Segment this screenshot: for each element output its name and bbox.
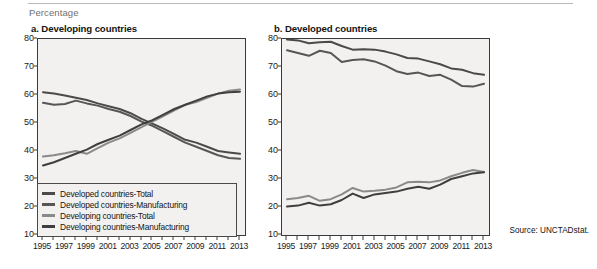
x-axis-tick-label: 2003 bbox=[121, 241, 139, 251]
y-axis-tick-label: 20 bbox=[14, 201, 34, 211]
y-axis-tick-mark bbox=[34, 38, 37, 39]
x-axis-tick-label: 1999 bbox=[321, 241, 339, 251]
y-axis-tick-label: 60 bbox=[258, 89, 278, 99]
y-axis-tick-mark bbox=[278, 66, 281, 67]
x-axis-tick-label: 1997 bbox=[299, 241, 317, 251]
x-axis-tick-label: 2003 bbox=[365, 241, 383, 251]
x-axis-tick-mark bbox=[286, 236, 287, 240]
x-axis-tick-mark bbox=[406, 236, 407, 240]
series-line bbox=[287, 170, 484, 201]
y-axis-tick-mark bbox=[34, 94, 37, 95]
y-axis-tick-mark bbox=[34, 150, 37, 151]
legend-item-label: Developed countries-Manufacturing bbox=[60, 200, 187, 210]
y-axis-tick-label: 60 bbox=[14, 89, 34, 99]
x-axis-tick-mark bbox=[239, 236, 240, 240]
y-axis-tick-label: 80 bbox=[258, 33, 278, 43]
y-axis-tick-label: 80 bbox=[14, 33, 34, 43]
panel-a-title: a. Developing countries bbox=[31, 23, 137, 34]
y-axis-tick-label: 40 bbox=[258, 145, 278, 155]
x-axis-tick-mark bbox=[417, 236, 418, 240]
source-note: Source: UNCTADstat. bbox=[510, 226, 589, 235]
legend-item-label: Developing countries-Total bbox=[60, 211, 155, 221]
x-axis-a: 1995199719992001200320052007200920112013 bbox=[37, 236, 246, 258]
x-axis-tick-mark bbox=[450, 236, 451, 240]
x-axis-tick-mark bbox=[439, 236, 440, 240]
chart-legend: Developed countries-TotalDeveloped count… bbox=[37, 183, 237, 237]
y-axis-tick-mark bbox=[278, 234, 281, 235]
legend-item-label: Developing countries-Manufacturing bbox=[60, 222, 189, 232]
y-axis-tick-label: 40 bbox=[14, 145, 34, 155]
x-axis-tick-label: 2005 bbox=[386, 241, 404, 251]
x-axis-tick-label: 2013 bbox=[474, 241, 492, 251]
y-axis-tick-mark bbox=[278, 178, 281, 179]
x-axis-tick-label: 2011 bbox=[208, 241, 225, 251]
panel-b-title: b. Developed countries bbox=[274, 23, 377, 34]
x-axis-tick-mark bbox=[362, 236, 363, 240]
x-axis-tick-mark bbox=[340, 236, 341, 240]
top-divider-rule bbox=[28, 3, 573, 4]
x-axis-tick-mark bbox=[461, 236, 462, 240]
legend-item: Developed countries-Total bbox=[42, 188, 231, 199]
y-axis-tick-label: 70 bbox=[14, 61, 34, 71]
x-axis-tick-mark bbox=[395, 236, 396, 240]
x-axis-tick-label: 2013 bbox=[230, 241, 248, 251]
x-axis-tick-label: 2001 bbox=[99, 241, 117, 251]
x-axis-tick-label: 2009 bbox=[430, 241, 448, 251]
legend-swatch-icon bbox=[42, 203, 55, 206]
y-axis-tick-label: 70 bbox=[258, 61, 278, 71]
series-line bbox=[287, 40, 484, 75]
x-axis-tick-label: 1995 bbox=[33, 241, 51, 251]
y-axis-tick-mark bbox=[278, 94, 281, 95]
legend-swatch-icon bbox=[42, 225, 55, 228]
x-axis-tick-mark bbox=[483, 236, 484, 240]
x-axis-tick-mark bbox=[373, 236, 374, 240]
x-axis-tick-label: 2001 bbox=[343, 241, 361, 251]
y-axis-tick-mark bbox=[34, 66, 37, 67]
series-line bbox=[43, 92, 240, 166]
legend-item: Developing countries-Manufacturing bbox=[42, 221, 231, 232]
x-axis-tick-mark bbox=[384, 236, 385, 240]
x-axis-tick-mark bbox=[296, 236, 297, 240]
y-axis-tick-mark bbox=[278, 38, 281, 39]
y-axis-tick-mark bbox=[34, 178, 37, 179]
y-axis-tick-mark bbox=[278, 206, 281, 207]
y-axis-tick-label: 30 bbox=[14, 173, 34, 183]
plot-area-b bbox=[281, 38, 490, 236]
y-axis-tick-label: 50 bbox=[14, 117, 34, 127]
x-axis-b: 1995199719992001200320052007200920112013 bbox=[281, 236, 490, 258]
y-axis-tick-label: 10 bbox=[258, 229, 278, 239]
legend-swatch-icon bbox=[42, 192, 55, 195]
y-axis-tick-label: 30 bbox=[258, 173, 278, 183]
x-axis-tick-mark bbox=[307, 236, 308, 240]
x-axis-tick-label: 2009 bbox=[186, 241, 204, 251]
x-axis-tick-label: 2007 bbox=[164, 241, 182, 251]
x-axis-tick-mark bbox=[472, 236, 473, 240]
x-axis-tick-label: 1997 bbox=[55, 241, 73, 251]
legend-item: Developed countries-Manufacturing bbox=[42, 199, 231, 210]
x-axis-tick-label: 2005 bbox=[142, 241, 160, 251]
y-axis-tick-label: 50 bbox=[258, 117, 278, 127]
y-axis-tick-mark bbox=[278, 122, 281, 123]
series-line bbox=[43, 89, 240, 156]
x-axis-tick-label: 2011 bbox=[452, 241, 469, 251]
legend-item: Developing countries-Total bbox=[42, 210, 231, 221]
x-axis-tick-mark bbox=[318, 236, 319, 240]
y-axis-tick-label: 20 bbox=[258, 201, 278, 211]
x-axis-tick-mark bbox=[351, 236, 352, 240]
y-axis-tick-label: 10 bbox=[14, 229, 34, 239]
y-axis-tick-mark bbox=[34, 122, 37, 123]
legend-swatch-icon bbox=[42, 214, 55, 217]
x-axis-tick-mark bbox=[428, 236, 429, 240]
legend-item-label: Developed countries-Total bbox=[60, 189, 153, 199]
chart-panel-developed: 1995199719992001200320052007200920112013… bbox=[258, 38, 490, 236]
unit-label: Percentage bbox=[29, 7, 79, 18]
series-line bbox=[43, 101, 240, 159]
x-axis-tick-label: 2007 bbox=[408, 241, 426, 251]
y-axis-tick-mark bbox=[278, 150, 281, 151]
x-axis-tick-label: 1999 bbox=[77, 241, 95, 251]
x-axis-tick-label: 1995 bbox=[277, 241, 295, 251]
x-axis-tick-mark bbox=[329, 236, 330, 240]
